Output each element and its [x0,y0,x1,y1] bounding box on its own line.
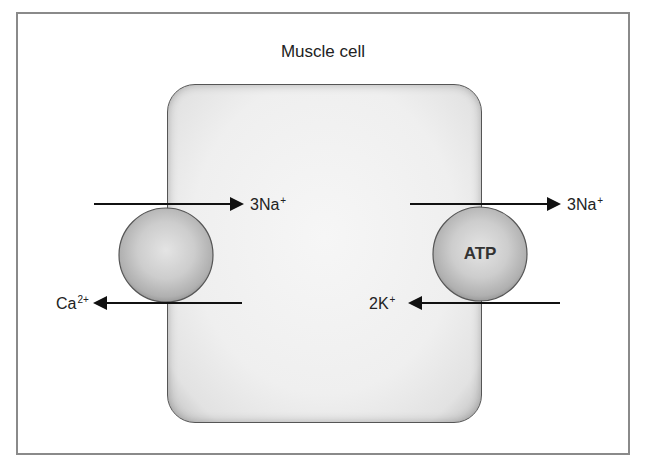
label-left-top-3na: 3Na+ [250,196,286,213]
ion-label: Ca [56,295,76,312]
ion-charge: + [390,294,396,305]
label-right-top-3na: 3Na+ [567,196,603,213]
ion-charge: + [280,195,286,206]
atp-label: ATP [433,207,527,301]
exchanger-transporter [119,208,213,302]
ion-label: 2K [369,295,389,312]
label-right-bottom-2k: 2K+ [369,295,395,312]
ion-label: 3Na [567,196,596,213]
ion-label: 3Na [250,196,279,213]
ion-charge: + [597,195,603,206]
label-left-bottom-ca: Ca2+ [56,295,89,312]
transport-graphics [0,0,646,468]
ion-charge: 2+ [77,294,88,305]
